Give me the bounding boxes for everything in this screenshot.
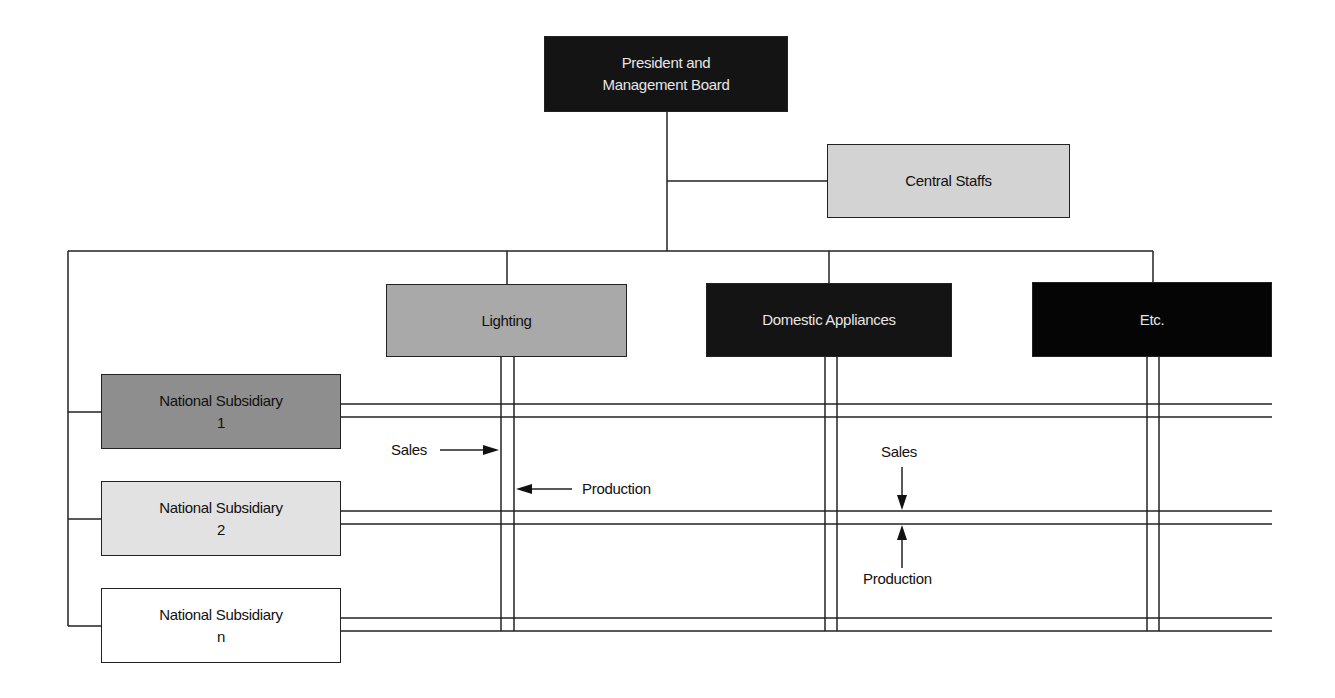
sales-label-right: Sales: [881, 443, 917, 460]
division-label: Etc.: [1140, 309, 1165, 331]
division-etc-box: Etc.: [1032, 282, 1272, 357]
national-subsidiary-2-box: National Subsidiary 2: [101, 481, 341, 556]
national-subsidiary-n-box: National Subsidiary n: [101, 588, 341, 663]
subsidiary-line2: n: [217, 626, 225, 648]
national-subsidiary-1-box: National Subsidiary 1: [101, 374, 341, 449]
division-domestic-appliances-box: Domestic Appliances: [706, 283, 952, 357]
division-label: Lighting: [481, 310, 531, 332]
production-label-left: Production: [582, 480, 651, 497]
president-management-board-box: President and Management Board: [544, 36, 788, 112]
subsidiary-line1: National Subsidiary: [159, 390, 283, 412]
central-staffs-label: Central Staffs: [905, 170, 991, 192]
arrow-left-icon: [516, 484, 532, 494]
arrow-up-icon: [897, 525, 907, 540]
subsidiary-line1: National Subsidiary: [159, 604, 283, 626]
top-line2: Management Board: [603, 74, 730, 96]
central-staffs-box: Central Staffs: [827, 144, 1070, 218]
sales-label-left: Sales: [391, 441, 427, 458]
division-label: Domestic Appliances: [762, 309, 896, 331]
subsidiary-line2: 2: [217, 519, 225, 541]
subsidiary-line1: National Subsidiary: [159, 497, 283, 519]
arrow-right-icon: [483, 445, 499, 455]
production-label-right: Production: [863, 570, 932, 587]
subsidiary-line2: 1: [217, 412, 225, 434]
arrow-down-icon: [897, 495, 907, 510]
division-lighting-box: Lighting: [386, 284, 627, 357]
top-line1: President and: [622, 52, 711, 74]
